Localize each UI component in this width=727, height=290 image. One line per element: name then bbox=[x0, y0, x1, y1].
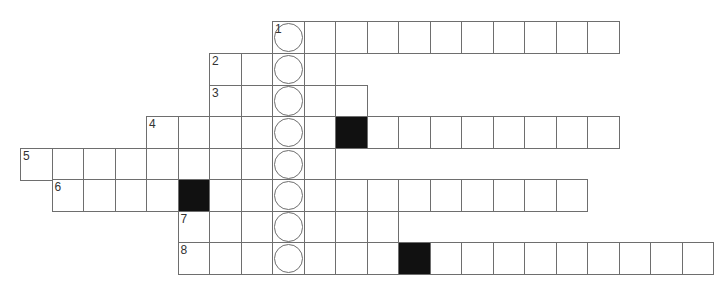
crossword-cell[interactable] bbox=[272, 179, 305, 212]
crossword-cell[interactable] bbox=[367, 242, 400, 275]
crossword-cell[interactable] bbox=[335, 211, 368, 244]
crossword-cell[interactable] bbox=[524, 242, 557, 275]
crossword-cell[interactable] bbox=[524, 21, 557, 54]
crossword-cell[interactable] bbox=[272, 53, 305, 86]
crossword-cell[interactable] bbox=[146, 148, 179, 181]
crossword-cell[interactable] bbox=[587, 242, 620, 275]
clue-number: 3 bbox=[212, 87, 219, 99]
crossword-cell[interactable] bbox=[304, 21, 337, 54]
crossword-cell[interactable] bbox=[493, 242, 526, 275]
crossword-cell[interactable] bbox=[398, 179, 431, 212]
crossword-cell[interactable] bbox=[209, 242, 242, 275]
circle-marker-icon bbox=[274, 150, 304, 180]
crossword-cell[interactable]: 3 bbox=[209, 85, 242, 118]
crossword-cell[interactable]: 8 bbox=[178, 242, 211, 275]
crossword-cell[interactable] bbox=[335, 21, 368, 54]
crossword-cell[interactable] bbox=[272, 211, 305, 244]
crossword-cell[interactable]: 1 bbox=[272, 21, 305, 54]
crossword-cell[interactable] bbox=[335, 179, 368, 212]
crossword-cell[interactable] bbox=[587, 116, 620, 149]
crossword-cell[interactable] bbox=[304, 116, 337, 149]
crossword-cell[interactable] bbox=[682, 242, 715, 275]
crossword-cell[interactable] bbox=[115, 179, 148, 212]
crossword-cell[interactable] bbox=[430, 242, 463, 275]
crossword-cell[interactable] bbox=[272, 116, 305, 149]
crossword-cell[interactable] bbox=[430, 116, 463, 149]
crossword-cell[interactable] bbox=[524, 116, 557, 149]
crossword-cell[interactable] bbox=[178, 116, 211, 149]
crossword-cell[interactable] bbox=[272, 85, 305, 118]
crossword-cell[interactable] bbox=[398, 21, 431, 54]
crossword-cell[interactable] bbox=[493, 21, 526, 54]
crossword-cell[interactable] bbox=[241, 53, 274, 86]
clue-number: 6 bbox=[55, 181, 62, 193]
crossword-cell[interactable] bbox=[587, 21, 620, 54]
crossword-cell[interactable] bbox=[650, 242, 683, 275]
crossword-cell[interactable] bbox=[304, 85, 337, 118]
crossword-cell[interactable] bbox=[335, 85, 368, 118]
crossword-cell[interactable] bbox=[367, 116, 400, 149]
crossword-cell[interactable]: 4 bbox=[146, 116, 179, 149]
crossword-cell[interactable] bbox=[367, 21, 400, 54]
crossword-cell[interactable] bbox=[209, 211, 242, 244]
crossword-cell[interactable] bbox=[272, 242, 305, 275]
crossword-cell[interactable] bbox=[461, 242, 494, 275]
crossword-cell[interactable] bbox=[461, 21, 494, 54]
circle-marker-icon bbox=[274, 118, 304, 148]
black-square bbox=[335, 116, 368, 149]
crossword-cell[interactable] bbox=[524, 179, 557, 212]
crossword-cell[interactable] bbox=[209, 116, 242, 149]
crossword-cell[interactable] bbox=[556, 179, 589, 212]
crossword-cell[interactable] bbox=[115, 148, 148, 181]
black-square bbox=[398, 242, 431, 275]
crossword-cell[interactable] bbox=[461, 179, 494, 212]
crossword-cell[interactable] bbox=[398, 116, 431, 149]
crossword-cell[interactable] bbox=[178, 148, 211, 181]
crossword-cell[interactable] bbox=[304, 148, 337, 181]
crossword-cell[interactable] bbox=[493, 116, 526, 149]
crossword-cell[interactable] bbox=[241, 85, 274, 118]
crossword-cell[interactable] bbox=[241, 116, 274, 149]
crossword-cell[interactable] bbox=[272, 148, 305, 181]
black-square bbox=[178, 179, 211, 212]
crossword-cell[interactable]: 6 bbox=[52, 179, 85, 212]
crossword-grid: 12345678 bbox=[0, 0, 727, 290]
crossword-cell[interactable] bbox=[304, 242, 337, 275]
crossword-cell[interactable] bbox=[241, 148, 274, 181]
clue-number: 1 bbox=[275, 23, 282, 35]
crossword-cell[interactable] bbox=[430, 21, 463, 54]
crossword-cell[interactable] bbox=[304, 211, 337, 244]
crossword-cell[interactable] bbox=[241, 211, 274, 244]
circle-marker-icon bbox=[274, 55, 304, 85]
crossword-cell[interactable] bbox=[556, 242, 589, 275]
crossword-cell[interactable] bbox=[241, 242, 274, 275]
crossword-cell[interactable] bbox=[52, 148, 85, 181]
crossword-cell[interactable] bbox=[430, 179, 463, 212]
crossword-cell[interactable]: 5 bbox=[20, 148, 53, 181]
crossword-cell[interactable]: 2 bbox=[209, 53, 242, 86]
clue-number: 8 bbox=[181, 244, 188, 256]
circle-marker-icon bbox=[274, 181, 304, 211]
crossword-cell[interactable] bbox=[367, 179, 400, 212]
crossword-cell[interactable] bbox=[304, 179, 337, 212]
crossword-cell[interactable] bbox=[461, 116, 494, 149]
crossword-cell[interactable]: 7 bbox=[178, 211, 211, 244]
clue-number: 4 bbox=[149, 118, 156, 130]
crossword-cell[interactable] bbox=[619, 242, 652, 275]
crossword-cell[interactable] bbox=[335, 242, 368, 275]
crossword-cell[interactable] bbox=[83, 148, 116, 181]
clue-number: 2 bbox=[212, 55, 219, 67]
crossword-cell[interactable] bbox=[83, 179, 116, 212]
clue-number: 5 bbox=[23, 150, 30, 162]
crossword-cell[interactable] bbox=[241, 179, 274, 212]
crossword-cell[interactable] bbox=[556, 21, 589, 54]
crossword-cell[interactable] bbox=[556, 116, 589, 149]
crossword-cell[interactable] bbox=[367, 211, 400, 244]
crossword-cell[interactable] bbox=[146, 179, 179, 212]
crossword-cell[interactable] bbox=[209, 179, 242, 212]
crossword-cell[interactable] bbox=[209, 148, 242, 181]
circle-marker-icon bbox=[274, 244, 304, 274]
clue-number: 7 bbox=[181, 213, 188, 225]
crossword-cell[interactable] bbox=[304, 53, 337, 86]
crossword-cell[interactable] bbox=[493, 179, 526, 212]
